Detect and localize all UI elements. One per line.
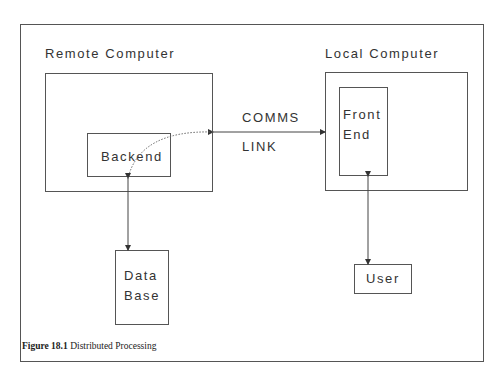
connector-lines [0,0,492,378]
dotted-backend-link [128,132,213,178]
caption-text: Distributed Processing [70,341,156,351]
caption-number: Figure 18.1 [22,341,68,351]
figure-caption: Figure 18.1 Distributed Processing [22,341,156,351]
